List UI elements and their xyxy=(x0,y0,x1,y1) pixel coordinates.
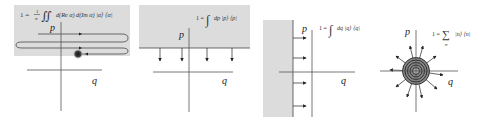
svg-text:1 =: 1 = xyxy=(196,15,205,21)
svg-text:∫: ∫ xyxy=(328,22,334,38)
panel-coherent-states: 1 = 1 π ∬ d(Re α) d(Im α) |α⟩ ⟨α| p q xyxy=(14,5,130,111)
panel-position-states: 1 = ∫ dq |q⟩ ⟨q| p q xyxy=(263,20,360,117)
p-label: p xyxy=(178,29,184,40)
q-label: q xyxy=(222,75,227,86)
q-label: q xyxy=(341,75,346,86)
svg-text:d(Re α) d(Im α) |α⟩ ⟨α|: d(Re α) d(Im α) |α⟩ ⟨α| xyxy=(56,11,113,19)
q-label: q xyxy=(448,76,453,87)
formula: 1 = ∫ dq |q⟩ ⟨q| xyxy=(319,22,360,38)
coherent-state-blob xyxy=(73,49,83,59)
svg-text:∑: ∑ xyxy=(442,28,450,41)
down-arrows xyxy=(160,48,232,61)
panel-number-states: 1 = ∑ n |n⟩ ⟨n| p q xyxy=(380,26,471,112)
svg-text:1 =: 1 = xyxy=(319,25,328,31)
q-label: q xyxy=(92,75,97,86)
svg-text:dp |p⟩ ⟨p|: dp |p⟩ ⟨p| xyxy=(214,15,237,21)
svg-text:∬: ∬ xyxy=(41,9,52,23)
panel-momentum-states: 1 = ∫ dp |p⟩ ⟨p| p q xyxy=(139,5,250,112)
svg-text:dq |q⟩ ⟨q|: dq |q⟩ ⟨q| xyxy=(337,25,360,31)
formula: 1 = ∑ n |n⟩ ⟨n| xyxy=(432,28,471,47)
svg-text:|n⟩ ⟨n|: |n⟩ ⟨n| xyxy=(455,31,471,37)
svg-text:1 =: 1 = xyxy=(432,31,441,37)
shaded-region xyxy=(263,20,293,117)
phase-space-diagrams: 1 = 1 π ∬ d(Re α) d(Im α) |α⟩ ⟨α| p q 1 … xyxy=(0,0,486,122)
p-label: p xyxy=(404,26,410,37)
p-label: p xyxy=(49,22,55,33)
p-label: p xyxy=(301,23,307,34)
shaded-region xyxy=(139,5,250,48)
svg-text:n: n xyxy=(445,42,448,47)
svg-text:1 =: 1 = xyxy=(20,11,29,19)
